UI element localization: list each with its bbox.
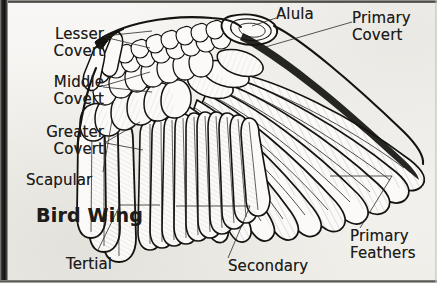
label-lesser-covert: Lesser Covert <box>18 26 104 60</box>
label-tertial: Tertial <box>66 256 112 273</box>
label-primary-covert: Primary Covert <box>352 10 411 44</box>
page-border-top <box>0 0 437 3</box>
label-greater-covert: Greater Covert <box>14 124 104 158</box>
illustration-page: Lesser Covert Middle Covert Greater Cove… <box>0 0 437 283</box>
label-scapular: Scapular <box>26 172 92 189</box>
label-primary-feathers: Primary Feathers <box>350 228 416 262</box>
page-border-left <box>0 0 8 283</box>
label-middle-covert: Middle Covert <box>18 74 104 108</box>
label-secondary: Secondary <box>228 258 308 275</box>
label-alula: Alula <box>276 6 314 23</box>
figure-title: Bird Wing <box>36 204 143 226</box>
